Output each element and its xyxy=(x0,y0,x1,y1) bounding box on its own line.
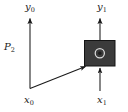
label-y1-base: y xyxy=(97,1,103,12)
arrow-p2-diagonal xyxy=(30,67,86,89)
label-y0: y0 xyxy=(25,2,35,13)
diagram-canvas: y0 y1 P2 x0 x1 xyxy=(0,0,128,112)
label-x0: x0 xyxy=(24,95,34,106)
label-y0-subscript: 0 xyxy=(31,6,35,14)
label-p2: P2 xyxy=(4,42,15,53)
label-y1: y1 xyxy=(97,2,107,13)
marker-center-dot xyxy=(98,52,101,55)
label-x1-subscript: 1 xyxy=(103,99,107,107)
label-p2-subscript: 2 xyxy=(11,46,15,54)
label-p2-base: P xyxy=(4,41,11,52)
label-x0-subscript: 0 xyxy=(30,99,34,107)
label-x0-base: x xyxy=(24,94,30,105)
label-x1-base: x xyxy=(97,94,103,105)
diagram-svg xyxy=(0,0,128,112)
label-y1-subscript: 1 xyxy=(103,6,107,14)
label-x1: x1 xyxy=(97,95,107,106)
label-y0-base: y xyxy=(25,1,31,12)
